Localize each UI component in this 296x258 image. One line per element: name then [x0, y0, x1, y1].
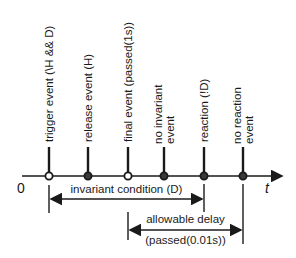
marker-hollow: [124, 172, 131, 179]
event-label-release: release event (H): [82, 54, 94, 142]
axis-origin-label: 0: [17, 180, 25, 196]
event-label-trigger: trigger event (\H && D): [43, 26, 55, 142]
marker-filled: [84, 172, 91, 179]
axis-time-label: t: [265, 180, 269, 196]
timeline-diagram: trigger event (\H && D) release event (H…: [0, 0, 296, 258]
invariant-span-label: invariant condition (D): [49, 183, 204, 195]
marker-filled: [200, 172, 207, 179]
marker-filled: [239, 172, 246, 179]
event-ticks: [49, 147, 243, 176]
allowable-delay-label: allowable delay: [128, 213, 243, 225]
marker-filled: [160, 172, 167, 179]
event-label-reaction: reaction (!D): [198, 79, 210, 142]
allowable-delay-sublabel: (passed(0.01s)): [128, 234, 243, 246]
event-label-no-reaction: no reaction event: [231, 87, 255, 144]
event-label-no-invariant: no invariant event: [152, 85, 176, 144]
marker-hollow: [45, 172, 52, 179]
event-label-final: final event (passed(1s)): [122, 22, 134, 142]
